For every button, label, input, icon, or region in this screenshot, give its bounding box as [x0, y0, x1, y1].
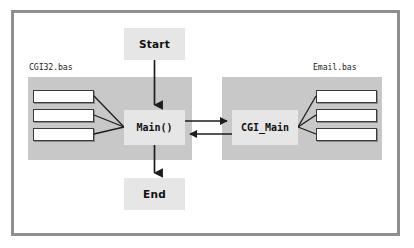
node-start[interactable]: Start [124, 28, 185, 60]
module-label-cgi32: CGI32.bas [29, 62, 72, 72]
node-end[interactable]: End [124, 178, 185, 210]
node-start-label: Start [139, 38, 170, 50]
routine-box[interactable] [316, 128, 377, 141]
node-main[interactable]: Main() [124, 110, 185, 145]
node-cgi-main[interactable]: CGI_Main [232, 110, 298, 145]
node-end-label: End [143, 188, 166, 200]
routine-box[interactable] [316, 90, 377, 103]
node-main-label: Main() [136, 122, 172, 133]
routine-box[interactable] [33, 109, 94, 122]
screenshot-root: CGI32.bas Email.bas [0, 0, 414, 248]
routine-box[interactable] [316, 109, 377, 122]
module-label-email: Email.bas [313, 62, 356, 72]
node-cgi-main-label: CGI_Main [241, 122, 289, 133]
routine-box[interactable] [33, 90, 94, 103]
diagram-canvas: CGI32.bas Email.bas [0, 0, 414, 248]
routine-box[interactable] [33, 128, 94, 141]
